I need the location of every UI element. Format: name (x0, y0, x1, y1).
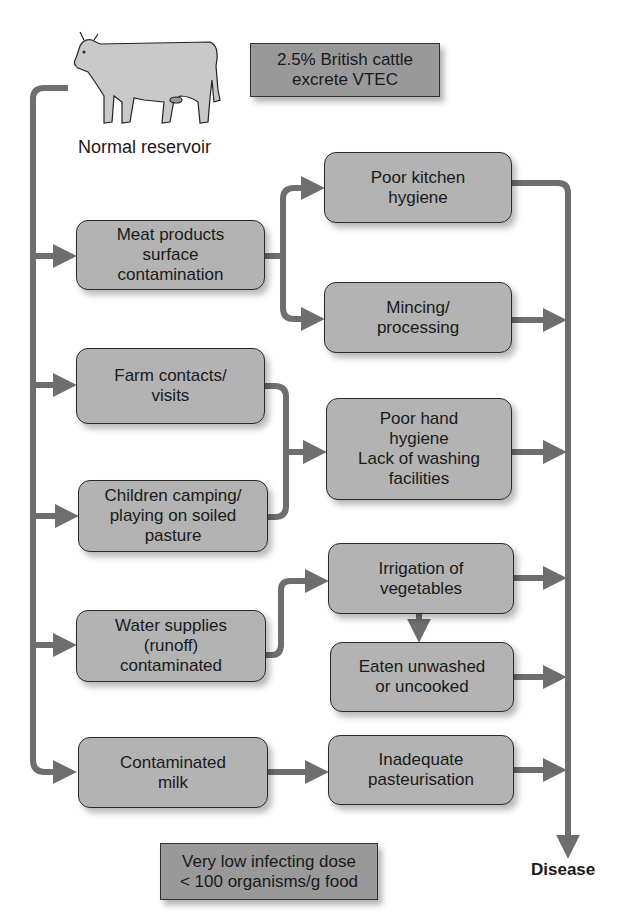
box-inadequate-pasteurisation: Inadequate pasteurisation (328, 735, 514, 805)
cow-icon (70, 30, 222, 130)
box-poor-kitchen-hygiene: Poor kitchen hygiene (324, 152, 512, 223)
box-mincing-processing: Mincing/ processing (324, 282, 512, 353)
box-children-camping: Children camping/ playing on soiled past… (78, 480, 268, 552)
reservoir-label: Normal reservoir (78, 137, 211, 158)
note-british-cattle: 2.5% British cattle excrete VTEC (250, 43, 440, 97)
box-farm-contacts: Farm contacts/ visits (76, 348, 265, 424)
box-eaten-unwashed: Eaten unwashed or uncooked (330, 642, 514, 712)
box-contaminated-milk: Contaminated milk (78, 737, 268, 808)
box-water-supplies: Water supplies (runoff) contaminated (76, 610, 266, 682)
note-infecting-dose: Very low infecting dose < 100 organisms/… (160, 843, 378, 900)
disease-label: Disease (531, 860, 595, 880)
box-poor-hand-hygiene: Poor hand hygiene Lack of washing facili… (326, 398, 512, 500)
box-irrigation: Irrigation of vegetables (328, 543, 514, 614)
box-meat-products: Meat products surface contamination (76, 220, 265, 290)
